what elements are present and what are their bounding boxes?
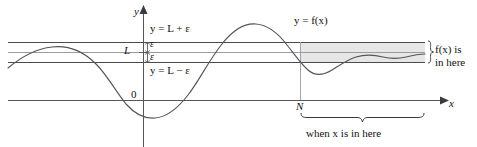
threshold-label: N bbox=[296, 101, 303, 113]
epsilon-lower-label: ε bbox=[150, 52, 154, 63]
x-axis-arrowhead bbox=[440, 97, 449, 105]
diagram-canvas bbox=[0, 0, 477, 147]
band-right-brace bbox=[428, 41, 434, 63]
function-curve bbox=[8, 24, 425, 118]
band-annotation-line1: f(x) is bbox=[435, 44, 462, 56]
function-curve-label: y = f(x) bbox=[294, 15, 328, 27]
upper-bound-equation-label: y = L + ε bbox=[150, 23, 190, 35]
y-axis-arrowhead bbox=[140, 5, 148, 14]
limit-value-label: L bbox=[124, 45, 130, 57]
lower-bound-equation-label: y = L − ε bbox=[150, 65, 190, 77]
origin-label: 0 bbox=[131, 89, 137, 101]
interval-bottom-brace bbox=[301, 113, 424, 122]
limit-diagram: y x 0 L y = L + ε y = L − ε ε ε y = f(x)… bbox=[0, 0, 477, 147]
interval-annotation-label: when x is in here bbox=[306, 128, 381, 140]
y-axis-label: y bbox=[134, 6, 139, 18]
epsilon-upper-label: ε bbox=[150, 39, 154, 50]
x-axis-label: x bbox=[449, 98, 454, 110]
band-annotation-line2: in here bbox=[435, 57, 465, 69]
